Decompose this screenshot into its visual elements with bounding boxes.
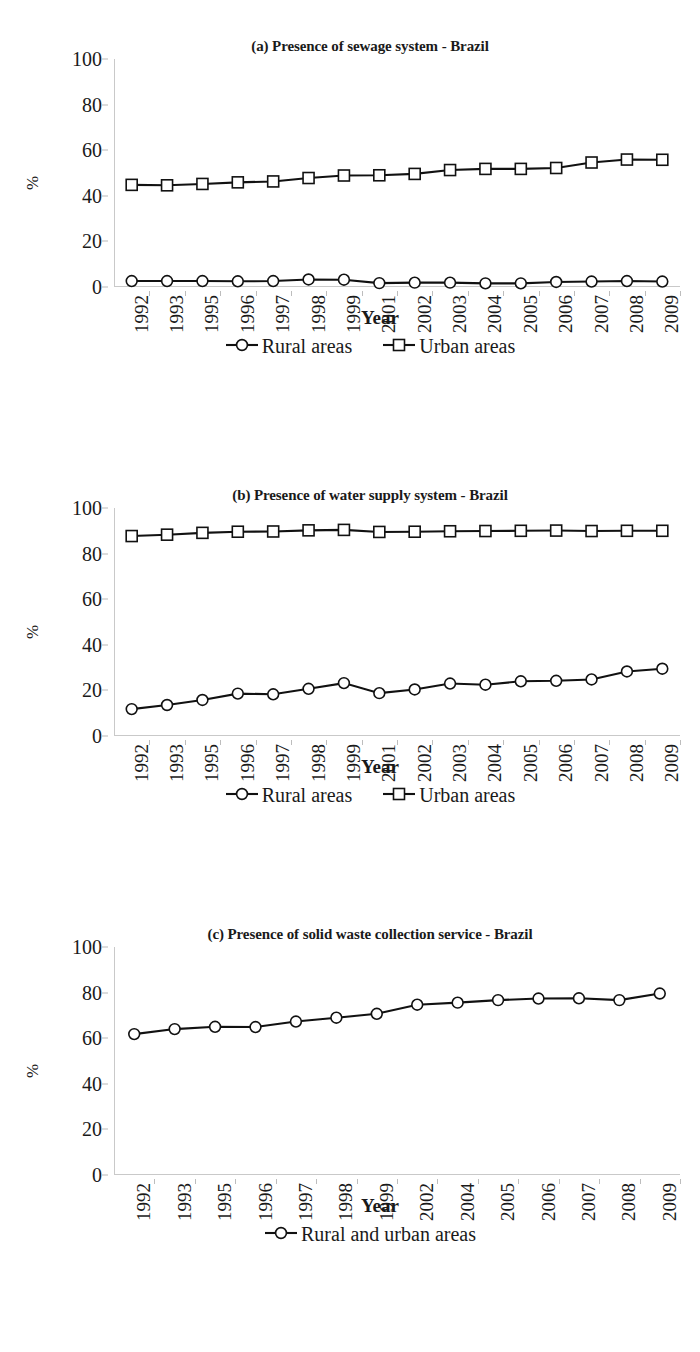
data-point-square-marker	[374, 526, 385, 537]
x-tick-mark	[291, 291, 292, 296]
x-tick-mark	[645, 291, 646, 296]
data-point-square-marker	[162, 180, 173, 191]
x-tick-label: 1996	[237, 744, 256, 782]
x-tick-label: 2008	[626, 295, 645, 333]
x-tick-mark	[185, 291, 186, 296]
data-point-circle-marker	[452, 997, 463, 1008]
y-tick-label: 100	[72, 937, 102, 957]
x-tick-label: 2001	[379, 295, 398, 333]
x-tick-label: 1995	[202, 744, 221, 782]
y-tick-label: 100	[72, 498, 102, 518]
x-tick-label: 2002	[414, 295, 433, 333]
y-tick-label: 20	[82, 680, 102, 700]
x-tick-mark	[680, 291, 681, 296]
data-point-circle-marker	[374, 688, 385, 699]
x-tick-mark	[195, 1179, 196, 1184]
data-point-square-marker	[232, 526, 243, 537]
x-tick-mark	[235, 1179, 236, 1184]
data-point-square-marker	[126, 179, 137, 190]
x-tick-mark	[154, 1179, 155, 1184]
panel-a-x-ticks: 1992199319951996199719981999200120022003…	[114, 291, 680, 355]
data-point-circle-marker	[480, 278, 491, 289]
x-tick-mark	[432, 740, 433, 745]
data-point-square-marker	[657, 154, 668, 165]
x-tick-mark	[185, 740, 186, 745]
x-tick-label: 1998	[308, 744, 327, 782]
data-point-circle-marker	[126, 704, 137, 715]
x-tick-label: 1999	[376, 1183, 395, 1221]
y-tick-label: 40	[82, 635, 102, 655]
panel-b-title: (b) Presence of water supply system - Br…	[0, 487, 700, 504]
panel-a-title: (a) Presence of sewage system - Brazil	[0, 38, 700, 55]
y-tick-label: 0	[92, 1165, 102, 1185]
y-tick-mark	[102, 508, 108, 509]
panel-b-x-ticks: 1992199319951996199719981999200120022003…	[114, 740, 680, 804]
x-tick-label: 2001	[379, 744, 398, 782]
x-tick-label: 1992	[131, 295, 150, 333]
x-tick-mark	[645, 740, 646, 745]
panel-b-y-axis-label: %	[23, 625, 43, 639]
data-point-square-marker	[551, 525, 562, 536]
data-point-circle-marker	[586, 276, 597, 287]
data-point-circle-marker	[614, 995, 625, 1006]
y-tick-mark	[102, 599, 108, 600]
x-tick-label: 1998	[308, 295, 327, 333]
x-tick-mark	[316, 1179, 317, 1184]
data-point-circle-marker	[654, 988, 665, 999]
x-tick-label: 2002	[414, 744, 433, 782]
data-point-square-marker	[409, 168, 420, 179]
x-tick-mark	[149, 291, 150, 296]
data-point-square-marker	[162, 529, 173, 540]
panel-b-y-ticks: 020406080100	[52, 508, 108, 736]
data-point-circle-marker	[339, 274, 350, 285]
y-tick-label: 60	[82, 589, 102, 609]
data-point-circle-marker	[409, 277, 420, 288]
data-point-circle-marker	[374, 278, 385, 289]
series-line-rural-areas	[132, 669, 663, 709]
y-tick-label: 100	[72, 49, 102, 69]
x-tick-label: 2007	[591, 295, 610, 333]
y-tick-label: 80	[82, 95, 102, 115]
panel-b-series-svg	[114, 508, 680, 736]
y-tick-label: 20	[82, 1119, 102, 1139]
data-point-circle-marker	[129, 1029, 140, 1040]
x-tick-label: 1997	[273, 744, 292, 782]
x-tick-label: 1997	[295, 1183, 314, 1221]
data-point-square-marker	[586, 157, 597, 168]
x-tick-mark	[574, 740, 575, 745]
y-tick-mark	[102, 644, 108, 645]
x-tick-mark	[518, 1179, 519, 1184]
x-tick-label: 2003	[450, 295, 469, 333]
x-tick-mark	[362, 291, 363, 296]
x-tick-mark	[539, 291, 540, 296]
data-point-circle-marker	[169, 1024, 180, 1035]
x-tick-mark	[220, 740, 221, 745]
x-tick-mark	[468, 291, 469, 296]
x-tick-label: 2009	[662, 744, 681, 782]
y-tick-mark	[102, 241, 108, 242]
data-point-circle-marker	[551, 675, 562, 686]
x-tick-label: 2009	[662, 295, 681, 333]
x-tick-mark	[256, 740, 257, 745]
data-point-square-marker	[126, 531, 137, 542]
panel-a-y-ticks: 020406080100	[52, 59, 108, 287]
y-tick-label: 0	[92, 726, 102, 746]
x-tick-label: 1999	[343, 744, 362, 782]
data-point-square-marker	[374, 170, 385, 181]
x-tick-mark	[149, 740, 150, 745]
x-tick-mark	[539, 740, 540, 745]
x-tick-mark	[503, 291, 504, 296]
data-point-square-marker	[551, 162, 562, 173]
data-point-circle-marker	[622, 666, 633, 677]
data-point-circle-marker	[162, 700, 173, 711]
data-point-circle-marker	[210, 1021, 221, 1032]
data-point-square-marker	[303, 525, 314, 536]
panel-c-title: (c) Presence of solid waste collection s…	[0, 926, 700, 943]
x-tick-label: 1992	[131, 744, 150, 782]
y-tick-label: 40	[82, 1074, 102, 1094]
data-point-circle-marker	[303, 683, 314, 694]
series-line-urban-areas	[132, 160, 663, 186]
data-point-circle-marker	[371, 1008, 382, 1019]
data-point-circle-marker	[126, 276, 137, 287]
data-point-square-marker	[480, 526, 491, 537]
